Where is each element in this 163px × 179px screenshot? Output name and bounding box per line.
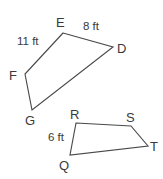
geometry-canvas: E D G F 11 ft 8 ft R S T Q 6 ft: [0, 0, 163, 179]
vertex-label-g: G: [25, 113, 35, 128]
geometry-figure: E D G F 11 ft 8 ft R S T Q 6 ft: [0, 0, 163, 179]
vertex-label-f: F: [9, 68, 17, 83]
vertex-label-t: T: [150, 139, 158, 154]
vertex-label-d: D: [117, 41, 126, 56]
vertex-label-q: Q: [59, 158, 69, 173]
vertex-label-s: S: [126, 110, 135, 125]
vertex-label-e: E: [56, 15, 65, 30]
measure-label-ed: 8 ft: [83, 20, 100, 32]
measure-label-ef: 11 ft: [17, 35, 39, 47]
figure-background: [0, 0, 163, 179]
vertex-label-r: R: [70, 107, 79, 122]
measure-label-qr: 6 ft: [48, 131, 65, 143]
